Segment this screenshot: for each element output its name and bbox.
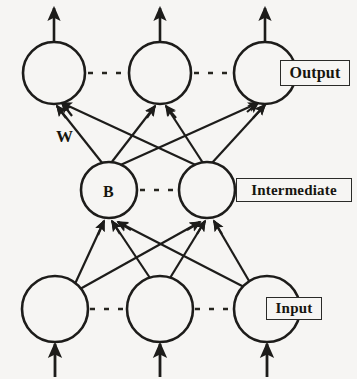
output-node-1 — [23, 42, 85, 104]
overlay-int1-c — [118, 222, 131, 230]
intermediate-node-2 — [179, 162, 235, 218]
input-arrows-group — [55, 344, 267, 377]
intermediate-to-output-edges — [57, 103, 265, 167]
input-nodes-group — [22, 276, 300, 342]
output-node-2 — [129, 42, 191, 104]
edge-int2-out1 — [62, 103, 200, 167]
edge-arrowhead-overlay — [57, 103, 265, 235]
network-diagram: W B Output Intermediate Input — [0, 0, 357, 379]
bias-symbol-label: B — [103, 184, 114, 200]
overlay-out2-b — [166, 106, 176, 118]
input-node-1 — [22, 276, 88, 342]
overlay-out2-a — [147, 106, 155, 118]
weight-symbol-label: W — [56, 128, 73, 145]
output-arrows-group — [54, 8, 265, 42]
output-nodes-group — [23, 42, 296, 104]
input-node-2 — [127, 276, 193, 342]
overlay-int2-c — [214, 221, 222, 234]
layer-label-output: Output — [280, 60, 350, 86]
overlay-int2-a — [187, 222, 200, 230]
overlay-int1-a — [98, 221, 104, 235]
layer-label-input: Input — [266, 297, 322, 320]
layer-label-intermediate: Intermediate — [236, 178, 352, 202]
